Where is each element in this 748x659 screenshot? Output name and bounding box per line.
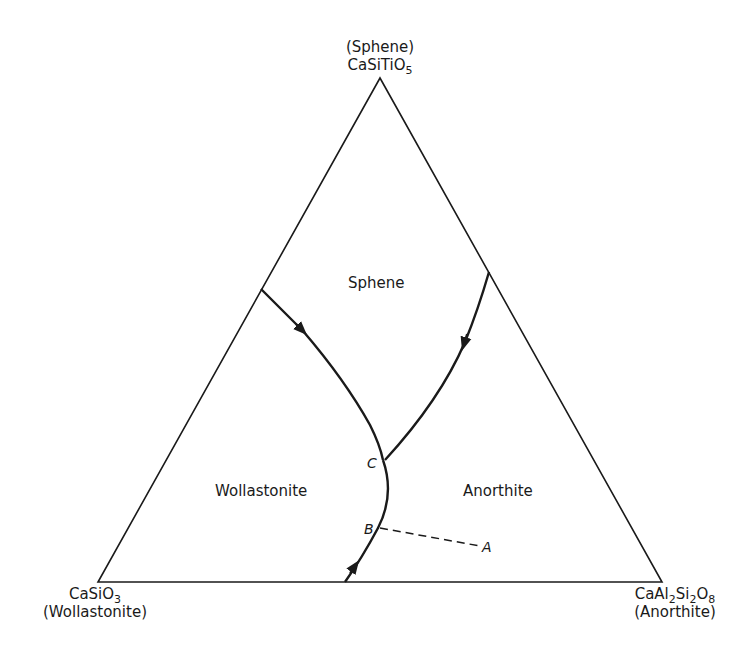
vertex-label-anorthite: CaAl2Si2O8 (Anorthite) [610,585,740,621]
arrow-icon [296,324,302,330]
vertex-formula-anorthite: CaAl2Si2O8 [610,585,740,603]
boundary-anorthite-sphene [385,272,489,460]
composition-triangle [98,78,662,582]
vertex-mineral-anorthite: (Anorthite) [610,603,740,621]
vertex-mineral-wollastonite: (Wollastonite) [30,603,160,621]
crystallization-path-A-B [380,528,480,546]
field-label-sphene: Sphene [348,274,405,292]
vertex-formula-sphene: CaSiTiO5 [330,56,430,74]
ternary-diagram-canvas [0,0,748,659]
point-label-C: C [367,455,377,471]
vertex-label-wollastonite: CaSiO3 (Wollastonite) [30,585,160,621]
point-label-A: A [482,539,492,555]
vertex-formula-wollastonite: CaSiO3 [30,585,160,603]
vertex-label-sphene: (Sphene) CaSiTiO5 [330,38,430,74]
field-label-wollastonite: Wollastonite [215,482,307,500]
boundary-wollastonite-sphene [261,289,383,460]
vertex-mineral-sphene: (Sphene) [330,38,430,56]
point-label-B: B [364,521,374,537]
field-label-anorthite: Anorthite [463,482,533,500]
